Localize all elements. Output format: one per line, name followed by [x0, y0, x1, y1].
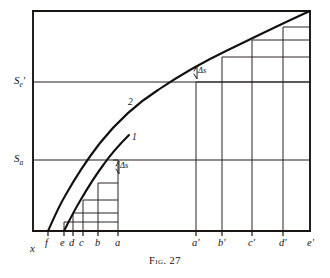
lower-staircase-group [64, 160, 118, 222]
level-label-sa: Sa [14, 153, 23, 167]
delta-s-label-lower: Δs [120, 161, 128, 170]
x-tick-label-c-prime: c' [248, 238, 255, 249]
x-tick-label-a: a [115, 238, 120, 249]
level-lines-group [33, 82, 310, 160]
figure-caption: Fig. 27 [0, 255, 330, 266]
x-tick-label-b-prime: b' [218, 238, 226, 249]
x-tick-label-a-prime: a' [192, 238, 200, 249]
x-tick-label-d-prime: d' [279, 238, 287, 249]
right-vertical-lines-group [196, 27, 283, 231]
axis-frame [33, 11, 310, 231]
x-tick-label-d: d [69, 238, 74, 249]
x-tick-label-c: c [79, 238, 84, 249]
upper-staircase-group [196, 27, 310, 82]
x-tick-label-e-prime: e' [307, 238, 314, 249]
axis-origin-label-x: x [30, 243, 35, 254]
delta-s-label-upper: Δs [198, 66, 206, 75]
x-tick-label-b: b [95, 238, 100, 249]
curve-label-2: 2 [128, 98, 133, 108]
figure-container: Se' Sa 2 1 Δs Δs x f e d c b a a' b' c' … [0, 0, 330, 278]
x-tick-label-f: f [45, 238, 48, 249]
curve-2-path [48, 11, 310, 231]
lower-vertical-lines-group [64, 160, 118, 231]
curve-label-1: 1 [132, 133, 137, 143]
x-tick-label-e: e [60, 238, 65, 249]
level-label-se-prime: Se' [14, 75, 25, 89]
